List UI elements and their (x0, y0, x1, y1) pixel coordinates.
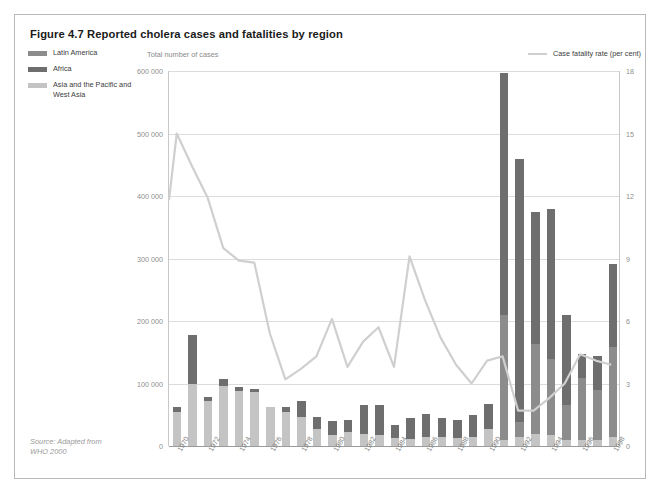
legend-item-latin-america[interactable]: Latin America (28, 48, 148, 58)
y-axis-right-tick-label: 15 (626, 129, 634, 138)
chart-plot-area: 0100 000200 000300 000400 000500 000600 … (168, 71, 620, 446)
figure-page: Figure 4.7 Reported cholera cases and fa… (0, 0, 660, 493)
y-axis-right-tick-label: 3 (626, 379, 630, 388)
y-axis-right-tick-label: 0 (626, 442, 630, 451)
case-fatality-line (169, 71, 619, 446)
legend-label-asia-pacific: Asia and the Pacific and West Asia (53, 80, 133, 100)
legend-label-case-fatality: Case fatality rate (per cent) (553, 49, 641, 59)
legend-swatch-africa (28, 67, 47, 72)
y-axis-right-tick-label: 6 (626, 317, 630, 326)
legend-label-africa: Africa (53, 64, 72, 74)
legend-case-fatality[interactable]: Case fatality rate (per cent) (528, 49, 641, 59)
legend-item-africa[interactable]: Africa (28, 64, 148, 74)
page-title: Figure 4.7 Reported cholera cases and fa… (30, 28, 343, 40)
case-fatality-line-path (169, 134, 611, 411)
legend-item-asia-pacific[interactable]: Asia and the Pacific and West Asia (28, 80, 148, 100)
legend-swatch-asia-pacific (28, 83, 47, 88)
legend-swatch-case-fatality-line (528, 53, 547, 55)
source-note: Source: Adapted from WHO 2000 (30, 437, 102, 457)
source-line-1: Source: Adapted from (30, 437, 102, 447)
y-axis-tick-label: 300 000 (137, 254, 163, 263)
y-axis-right-tick-label: 9 (626, 254, 630, 263)
legend-swatch-latin-america (28, 51, 47, 56)
y-axis-right-tick-label: 18 (626, 67, 634, 76)
y-axis-tick-label: 0 (159, 442, 163, 451)
y-axis-tick-label: 400 000 (137, 192, 163, 201)
y-axis-tick-label: 100 000 (137, 379, 163, 388)
source-line-2: WHO 2000 (30, 447, 102, 457)
legend-label-latin-america: Latin America (53, 48, 97, 58)
legend-regions: Latin America Africa Asia and the Pacifi… (28, 48, 148, 106)
y-axis-tick-label: 200 000 (137, 317, 163, 326)
y-axis-right-tick-label: 12 (626, 192, 634, 201)
y-axis-tick-label: 500 000 (137, 129, 163, 138)
y-axis-tick-label: 600 000 (137, 67, 163, 76)
y-axis-caption: Total number of cases (147, 50, 218, 59)
